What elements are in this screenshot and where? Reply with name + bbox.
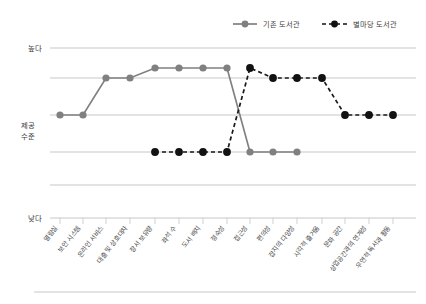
series-b-point-10 bbox=[293, 74, 301, 82]
series-a-point-2 bbox=[102, 74, 109, 81]
x-label-4: 장서 보유량 bbox=[128, 224, 155, 255]
series-b-point-13 bbox=[365, 111, 373, 119]
legend-marker-series-b bbox=[331, 21, 338, 28]
x-label-1: 보안 시스템 bbox=[56, 224, 82, 254]
series-a-point-4 bbox=[151, 64, 158, 71]
series-a-point-5 bbox=[175, 64, 182, 71]
x-label-0: 열람실 bbox=[41, 224, 58, 243]
series-b-point-6 bbox=[199, 148, 207, 156]
series-b-point-7 bbox=[223, 148, 231, 156]
chart-svg: 기존 도서관 별마당 도서관 높다 낮다 제공 수준 bbox=[0, 0, 426, 304]
x-label-5: 좌석 수 bbox=[159, 224, 178, 245]
chart-legend: 기존 도서관 별마당 도서관 bbox=[233, 20, 397, 29]
series-b-point-8 bbox=[246, 64, 254, 72]
series-b-point-11 bbox=[318, 74, 326, 82]
series-a-point-8 bbox=[246, 148, 253, 155]
series-a-point-0 bbox=[56, 111, 63, 118]
x-axis-labels: 열람실 보안 시스템 온라인 서비스 대출 및 상호대차 장서 보유량 좌석 수… bbox=[41, 224, 392, 274]
legend-label-series-a: 기존 도서관 bbox=[263, 20, 300, 29]
legend-marker-series-a bbox=[242, 21, 249, 28]
x-label-7: 정숙성 bbox=[208, 224, 226, 244]
x-label-11: 시각적 즐거움 bbox=[291, 224, 321, 259]
y-axis-low-label: 낮다 bbox=[28, 214, 42, 223]
x-label-6: 도서 배치 bbox=[180, 224, 203, 250]
series-a-point-7 bbox=[223, 64, 230, 71]
legend-item-series-a: 기존 도서관 bbox=[233, 20, 300, 29]
legend-item-series-b: 별마당 도서관 bbox=[322, 20, 397, 29]
series-a-point-1 bbox=[79, 111, 86, 118]
x-axis-ticks bbox=[60, 218, 393, 224]
x-label-8: 접근성 bbox=[231, 224, 248, 243]
legend-label-series-b: 별마당 도서관 bbox=[353, 20, 397, 29]
y-axis-high-label: 높다 bbox=[28, 44, 42, 53]
series-a-point-10 bbox=[293, 148, 300, 155]
series-a-point-9 bbox=[269, 148, 276, 155]
series-b-point-5 bbox=[175, 148, 183, 156]
y-axis-title-line1: 제공 bbox=[21, 121, 35, 130]
y-axis-title-line2: 수준 bbox=[21, 132, 35, 141]
series-a-point-6 bbox=[199, 64, 206, 71]
series-b-point-14 bbox=[389, 111, 397, 119]
series-b-point-9 bbox=[269, 74, 277, 82]
series-b-point-4 bbox=[151, 148, 159, 156]
x-label-9: 편의성 bbox=[254, 224, 272, 244]
strategy-canvas-chart: 기존 도서관 별마당 도서관 높다 낮다 제공 수준 bbox=[0, 0, 426, 304]
x-label-12: 문화 공간 bbox=[322, 224, 345, 250]
series-b-point-12 bbox=[341, 111, 349, 119]
series-a-polyline bbox=[60, 68, 297, 152]
series-a-point-3 bbox=[126, 74, 133, 81]
